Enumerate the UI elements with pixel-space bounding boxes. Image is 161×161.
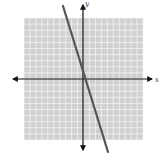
x-axis-label: x: [155, 76, 159, 84]
coordinate-plane: x y: [0, 0, 161, 161]
y-axis-label: y: [84, 0, 90, 8]
